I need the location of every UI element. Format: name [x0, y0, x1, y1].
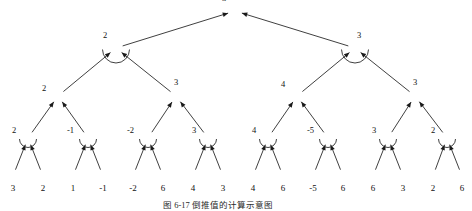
edge-arrowhead: [449, 145, 453, 151]
node-value-n2: 3: [357, 31, 361, 40]
minmax-arc: [380, 139, 397, 148]
edge-arrowhead: [49, 102, 54, 108]
minmax-arc: [320, 139, 337, 148]
edge-arrowhead: [30, 145, 34, 151]
edge-arrowhead: [288, 102, 293, 108]
leaf-value-L8: 3: [216, 184, 230, 193]
edge-arrowhead: [150, 145, 154, 151]
tree-edge: [302, 53, 349, 92]
node-value-n22: 3: [413, 78, 417, 87]
edge-arrowhead: [222, 13, 228, 17]
node-value-m1: 2: [12, 126, 16, 135]
leaf-value-L2: 2: [36, 184, 50, 193]
edge-arrowhead: [330, 145, 334, 151]
node-value-n11: 2: [42, 84, 46, 93]
figure-caption: 图 6-17 倒推值的计算示意图: [163, 198, 273, 210]
edge-arrowhead: [90, 145, 94, 151]
leaf-value-L13: 6: [366, 184, 380, 193]
edge-arrowhead: [141, 145, 145, 151]
edge-arrowhead: [81, 145, 85, 151]
tree-edge: [361, 52, 410, 91]
edge-arrowhead: [406, 102, 411, 108]
edge-arrowhead: [21, 145, 25, 151]
leaf-value-L16: 6: [455, 184, 469, 193]
node-value-m2: -1: [67, 126, 74, 135]
edge-arrowhead: [381, 145, 385, 151]
leaf-value-L4: -1: [96, 184, 110, 193]
leaf-value-L11: -5: [306, 184, 320, 193]
edge-arrowhead: [270, 145, 274, 151]
node-value-n21: 4: [281, 80, 285, 89]
leaf-value-L15: 2: [426, 184, 440, 193]
leaf-value-L7: 4: [186, 184, 200, 193]
edge-arrowhead: [390, 145, 394, 151]
tree-edge: [152, 102, 172, 132]
tree-edge: [63, 53, 110, 92]
edge-arrowhead: [321, 145, 325, 151]
node-value-m4: 3: [192, 126, 196, 135]
minmax-arc: [80, 139, 97, 148]
leaf-value-L9: 4: [246, 184, 260, 193]
node-value-m8: 2: [431, 126, 435, 135]
node-value-m5: 4: [252, 126, 256, 135]
edge-arrowhead: [301, 102, 306, 108]
node-value-m6: -5: [307, 126, 314, 135]
tree-edge: [123, 13, 228, 46]
edge-arrowhead: [242, 13, 248, 17]
node-value-root: 3: [222, 0, 226, 3]
edge-arrowhead: [180, 102, 185, 108]
edge-arrowhead: [167, 102, 172, 108]
tree-edge: [122, 52, 171, 91]
leaf-value-L6: 6: [156, 184, 170, 193]
edge-arrowhead: [210, 145, 214, 151]
tree-edge: [32, 102, 54, 132]
minmax-arc: [439, 139, 456, 148]
leaf-value-L3: 1: [66, 184, 80, 193]
node-value-n12: 3: [174, 78, 178, 87]
minmax-arc: [260, 139, 277, 148]
leaf-value-L14: 3: [396, 184, 410, 193]
edge-arrowhead: [261, 145, 265, 151]
node-value-n1: 2: [103, 31, 107, 40]
tree-edge: [242, 13, 348, 46]
node-value-m3: -2: [127, 126, 134, 135]
leaf-value-L12: 6: [336, 184, 350, 193]
minmax-arc: [140, 139, 157, 148]
figure-canvas: 32323432-1-234-532321-1-264346-566326 图 …: [0, 0, 472, 211]
leaf-value-L5: -2: [126, 184, 140, 193]
leaf-value-L1: 3: [6, 184, 20, 193]
game-tree-svg: [0, 0, 472, 211]
minmax-arc: [200, 139, 217, 148]
edge-arrowhead: [62, 102, 67, 108]
node-value-m7: 3: [372, 126, 376, 135]
minmax-arc: [20, 139, 37, 147]
edge-arrowhead: [201, 145, 205, 151]
leaf-value-L10: 6: [276, 184, 290, 193]
tree-edge: [272, 102, 293, 132]
edge-arrowhead: [419, 102, 424, 108]
